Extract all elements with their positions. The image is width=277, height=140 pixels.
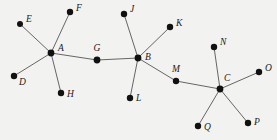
graph-node-q — [195, 123, 201, 129]
graph-node-label-m: M — [171, 64, 181, 74]
graph-node-j — [121, 11, 127, 17]
graph-node-k — [167, 24, 173, 30]
graph-node-label-j: J — [130, 4, 135, 14]
graph-node-label-l: L — [135, 93, 141, 103]
graph-node-e — [17, 21, 23, 27]
graph-node-f — [67, 9, 73, 15]
graph-edge-a-h — [51, 53, 61, 93]
graph-node-label-k: K — [175, 18, 183, 28]
edge-layer — [14, 12, 259, 126]
graph-edge-a-e — [20, 24, 51, 53]
graph-node-m — [173, 78, 179, 84]
graph-node-o — [256, 69, 262, 75]
graph-node-label-d: D — [18, 77, 26, 87]
graph-node-label-c: C — [224, 73, 231, 83]
graph-node-p — [245, 120, 251, 126]
graph-node-label-a: A — [57, 43, 64, 53]
graph-edge-c-p — [220, 89, 248, 123]
graph-node-h — [58, 90, 64, 96]
label-layer: EFADHGJKBLMNCOQP — [18, 3, 272, 132]
graph-node-label-g: G — [94, 43, 101, 53]
graph-node-c — [217, 86, 224, 93]
graph-node-label-n: N — [219, 37, 227, 47]
graph-edge-b-m — [138, 58, 176, 81]
graph-node-d — [11, 73, 17, 79]
graph-edge-c-q — [198, 89, 220, 126]
graph-node-label-b: B — [145, 52, 151, 62]
graph-node-label-q: Q — [204, 122, 211, 132]
graph-edge-g-b — [97, 58, 138, 60]
graph-node-label-h: H — [66, 89, 75, 99]
graph-node-b — [135, 55, 142, 62]
graph-canvas: EFADHGJKBLMNCOQP — [0, 0, 277, 140]
graph-node-n — [211, 44, 217, 50]
graph-edge-a-g — [51, 53, 97, 60]
graph-edge-b-l — [130, 58, 138, 98]
graph-edge-a-d — [14, 53, 51, 76]
graph-edge-c-n — [214, 47, 220, 89]
graph-node-label-e: E — [25, 14, 32, 24]
node-layer — [11, 9, 262, 129]
graph-node-label-p: P — [253, 117, 260, 127]
graph-node-a — [48, 50, 55, 57]
graph-node-l — [127, 95, 133, 101]
graph-node-label-f: F — [75, 3, 82, 13]
graph-edge-m-c — [176, 81, 220, 89]
graph-node-g — [94, 57, 101, 64]
graph-edge-b-j — [124, 14, 138, 58]
graph-edge-b-k — [138, 27, 170, 58]
graph-figure: EFADHGJKBLMNCOQP — [0, 0, 277, 140]
graph-node-label-o: O — [265, 63, 272, 73]
